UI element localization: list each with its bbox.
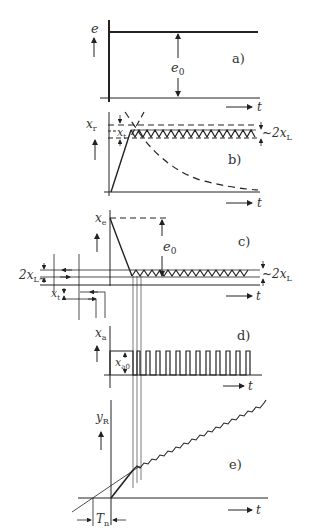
panel-e-y-label: yR [95,410,110,426]
panel-c-xt-leader-2 [64,299,96,318]
panel-a-t-label: t [257,100,262,114]
panel-b-y-label: xr [86,117,97,133]
panel-b-decay-curve [125,112,258,190]
panel-a: e0 e a) t [91,20,262,114]
panel-d-t-label: t [248,379,253,393]
panel-d-amplitude-label: xa0 [115,356,130,371]
panel-c-xt-leader-1 [80,292,105,318]
panel-b-t-label: t [257,196,262,210]
panel-e-tn-label: Tn [96,512,109,528]
panel-e-sawtooth-ramp [133,400,266,470]
panel-d: xa xa0 d) t [95,326,262,393]
panel-b: xr xt ~2xL b) t [86,112,292,210]
panel-c-t-label: t [256,289,261,303]
panel-b-zigzag [131,130,255,137]
panel-c-band-label-right: ~2xL [262,267,292,283]
panel-d-pulse-train [110,351,250,375]
panel-b-band-label: ~2xL [262,126,292,142]
panel-e-tag: e) [229,457,242,472]
panel-e-initial-rise [111,470,133,498]
panel-a-tag: a) [232,51,245,66]
controller-response-diagram: e0 e a) t xr xt ~2xL b) t [0,0,313,532]
panel-c: e0 xe c) ~2xL t 2xL~ xt [18,210,292,488]
panel-a-e0-label: e0 [171,60,185,77]
panel-d-y-label: xa [95,326,107,342]
panel-c-y-label: xe [95,211,107,227]
panel-c-e0-label: e0 [163,239,177,256]
panel-b-xt-label: xt [117,126,126,141]
panel-d-tag: d) [237,328,250,343]
panel-a-y-label: e [91,21,99,36]
panel-c-tag: c) [238,234,250,249]
panel-e-t-label: t [256,503,261,517]
panel-c-fall-curve [110,218,132,276]
panel-e-extrapolation [72,466,140,512]
panel-e: yR e) t Tn [72,400,268,528]
panel-c-zigzag [132,270,248,276]
panel-c-xt-label: xt [51,287,60,302]
panel-b-tag: b) [228,152,241,167]
panel-b-rise [111,130,131,192]
